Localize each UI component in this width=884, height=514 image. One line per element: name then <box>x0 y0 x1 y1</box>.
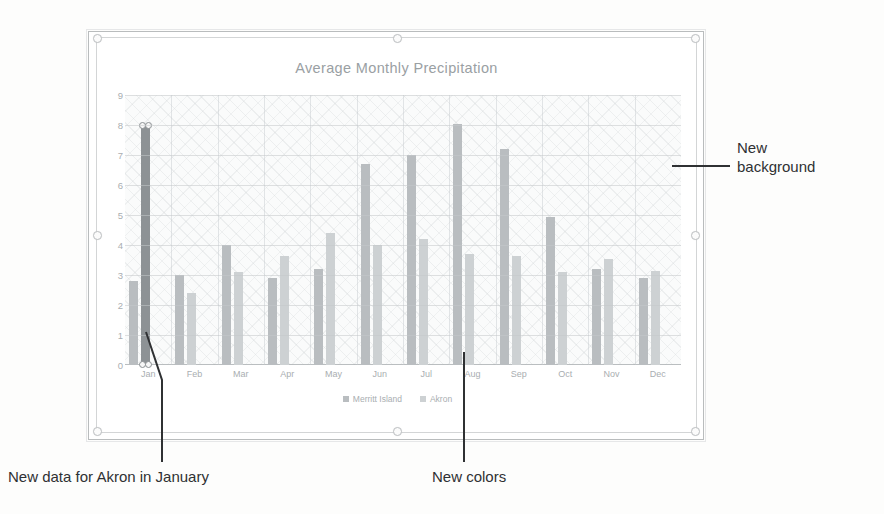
x-axis-tick-label: Aug <box>464 369 480 379</box>
x-axis-tick-label: Jul <box>420 369 432 379</box>
x-axis-tick-label: Dec <box>650 369 666 379</box>
bar[interactable] <box>234 272 243 365</box>
annotation-akron-january: New data for Akron in January <box>8 468 209 487</box>
legend-item[interactable]: Merritt Island <box>343 394 402 404</box>
bar[interactable] <box>407 155 416 365</box>
x-axis-labels: JanFebMarAprMayJunJulAugSepOctNovDec <box>125 369 681 383</box>
x-axis-tick-label: May <box>325 369 342 379</box>
leader-line-akron-january <box>140 328 180 466</box>
gridline-vertical <box>357 95 358 365</box>
x-axis-tick-label: Nov <box>603 369 619 379</box>
x-axis-tick-label: Feb <box>187 369 203 379</box>
y-axis-tick: 0 <box>103 360 123 371</box>
y-axis: 0123456789 <box>103 95 123 365</box>
plot-area[interactable] <box>125 95 681 365</box>
legend-swatch-icon <box>420 396 426 402</box>
y-axis-tick: 5 <box>103 210 123 221</box>
bar[interactable] <box>314 269 323 365</box>
bar-group <box>542 95 588 365</box>
bar[interactable] <box>512 256 521 366</box>
gridline-vertical <box>310 95 311 365</box>
y-axis-tick: 4 <box>103 240 123 251</box>
bar-group <box>264 95 310 365</box>
bar-group <box>588 95 634 365</box>
bar-group <box>218 95 264 365</box>
gridline-vertical <box>171 95 172 365</box>
bar-group <box>357 95 403 365</box>
leader-line-background <box>672 165 730 167</box>
gridline-vertical <box>403 95 404 365</box>
gridline-vertical <box>542 95 543 365</box>
annotation-new-background-line2: background <box>737 158 815 177</box>
bar-group <box>310 95 356 365</box>
bar[interactable] <box>419 239 428 365</box>
x-axis-tick-label: Apr <box>280 369 294 379</box>
bar[interactable] <box>465 254 474 365</box>
bar[interactable] <box>546 217 555 366</box>
y-axis-tick: 6 <box>103 180 123 191</box>
bar[interactable] <box>639 278 648 365</box>
gridline-vertical <box>588 95 589 365</box>
annotation-new-colors: New colors <box>432 468 506 487</box>
gridline-vertical <box>449 95 450 365</box>
bar[interactable] <box>500 149 509 365</box>
gridline-vertical <box>218 95 219 365</box>
bar[interactable] <box>187 293 196 365</box>
legend-swatch-icon <box>343 396 349 402</box>
bar-group <box>496 95 542 365</box>
annotation-new-background-line1: New <box>737 139 815 158</box>
y-axis-tick: 1 <box>103 330 123 341</box>
bar[interactable] <box>592 269 601 365</box>
plot-wrapper: 0123456789 JanFebMarAprMayJunJulAugSepOc… <box>97 38 698 434</box>
bar[interactable] <box>280 256 289 366</box>
gridline-vertical <box>635 95 636 365</box>
legend-label: Merritt Island <box>353 394 402 404</box>
bar-group <box>449 95 495 365</box>
bar-group <box>635 95 681 365</box>
x-axis-tick-label: Sep <box>511 369 527 379</box>
annotation-new-background: New background <box>737 139 815 177</box>
bar[interactable] <box>558 272 567 365</box>
bar-group <box>403 95 449 365</box>
x-axis-tick-label: Mar <box>233 369 249 379</box>
gridline-vertical <box>496 95 497 365</box>
legend-label: Akron <box>430 394 452 404</box>
bar[interactable] <box>129 281 138 365</box>
chart-legend[interactable]: Merritt IslandAkron <box>97 394 698 404</box>
leader-line-new-colors <box>463 352 465 462</box>
screenshot-page: Average Monthly Precipitation 0123456789… <box>0 0 884 514</box>
bar-group <box>171 95 217 365</box>
y-axis-tick: 3 <box>103 270 123 281</box>
x-axis-tick-label: Jun <box>373 369 388 379</box>
x-axis-tick-label: Oct <box>558 369 572 379</box>
chart-object[interactable]: Average Monthly Precipitation 0123456789… <box>96 37 697 433</box>
bar[interactable] <box>326 233 335 365</box>
y-axis-tick: 9 <box>103 90 123 101</box>
y-axis-tick: 7 <box>103 150 123 161</box>
gridline-vertical <box>264 95 265 365</box>
y-axis-tick: 8 <box>103 120 123 131</box>
bar-group <box>125 95 171 365</box>
legend-item[interactable]: Akron <box>420 394 452 404</box>
bar[interactable] <box>268 278 277 365</box>
bar[interactable] <box>651 271 660 366</box>
y-axis-tick: 2 <box>103 300 123 311</box>
